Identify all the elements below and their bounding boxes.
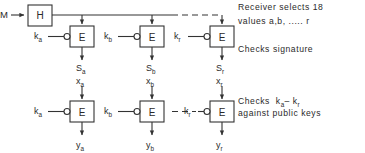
annotation-receiver-line-1: Receiver selects 18 <box>238 2 323 12</box>
sign-block-r-label: E <box>219 32 226 43</box>
key-bubble-r-verify <box>204 109 210 115</box>
verify-block-r-label: E <box>219 107 226 118</box>
hash-block-label: H <box>36 10 43 21</box>
key-label-r-sign: kr <box>174 31 181 43</box>
key-bubble-b-sign <box>134 34 140 40</box>
sign-output-label-a: Sa <box>76 63 86 75</box>
annotation-checks-keys-line-2: against public keys <box>238 108 321 118</box>
figure-canvas: M H E E E ka kb kr Sa Sb Sr xa xb xr E E… <box>0 0 365 153</box>
key-label-r-verify: kr <box>184 106 191 118</box>
checks-keys-prefix: Checks <box>238 96 270 106</box>
verify-block-a-label: E <box>79 107 86 118</box>
key-bubble-a-verify <box>64 109 70 115</box>
message-label: M <box>0 9 8 20</box>
key-label-b-verify: kb <box>104 106 113 118</box>
sign-block-a-label: E <box>79 32 86 43</box>
annotation-checks-signature: Checks signature <box>238 44 313 54</box>
checks-keys-kr-sub: r <box>298 101 300 108</box>
key-bubble-a-sign <box>64 34 70 40</box>
verify-input-label-a: xa <box>76 76 85 88</box>
verify-output-label-a: ya <box>76 140 85 152</box>
checks-keys-dash: – <box>284 96 289 106</box>
verify-input-label-r: xr <box>216 76 223 88</box>
annotation-checks-keys-line-1: Checks ka– kr <box>238 96 300 108</box>
sign-output-label-b: Sb <box>146 63 156 75</box>
key-label-a-verify: ka <box>34 106 43 118</box>
sign-output-label-r: Sr <box>216 63 224 75</box>
key-bubble-b-verify <box>134 109 140 115</box>
verify-output-label-r: yr <box>216 140 223 152</box>
key-bubble-r-sign <box>204 34 210 40</box>
key-label-a-sign: ka <box>34 31 43 43</box>
key-label-b-sign: kb <box>104 31 113 43</box>
sign-block-b-label: E <box>149 32 156 43</box>
verify-output-label-b: yb <box>146 140 155 152</box>
annotation-receiver-line-2: values a,b, ..... r <box>238 16 310 26</box>
diagram-svg: M H E E E ka kb kr Sa Sb Sr xa xb xr E E… <box>0 0 365 153</box>
verify-input-label-b: xb <box>146 76 155 88</box>
verify-block-b-label: E <box>149 107 156 118</box>
